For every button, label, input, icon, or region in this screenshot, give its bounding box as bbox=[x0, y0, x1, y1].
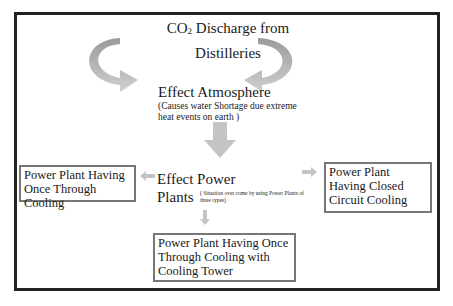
effect-atmosphere-note: (Causes water Shortage due extreme heat … bbox=[158, 101, 298, 123]
effect-power-plants-note: ( Situation over come by using Power Pla… bbox=[200, 190, 310, 204]
down-arrow-small-icon bbox=[200, 210, 210, 225]
left-arrow-small-icon bbox=[140, 171, 155, 181]
right-arrow-small-icon bbox=[302, 167, 317, 177]
effect-atmosphere-label: Effect Atmosphere bbox=[158, 84, 271, 101]
box-closed-circuit-cooling: Power Plant Having Closed Circuit Coolin… bbox=[324, 162, 432, 213]
down-arrow-large-icon bbox=[204, 122, 236, 158]
box-cooling-tower: Power Plant Having Once Through Cooling … bbox=[153, 233, 296, 282]
box-once-through-cooling: Power Plant Having Once Through Cooling bbox=[19, 165, 136, 202]
title-co2-discharge: CO2 Discharge from Distilleries bbox=[128, 17, 328, 64]
